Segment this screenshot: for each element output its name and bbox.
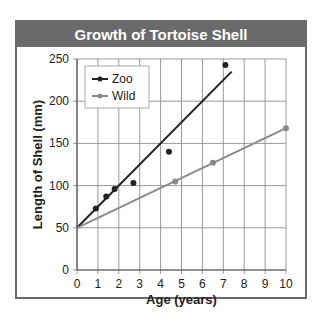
x-tick-label: 8	[241, 277, 248, 291]
data-point-zoo	[103, 194, 109, 200]
y-tick-label: 0	[62, 263, 69, 277]
y-tick-label: 100	[49, 179, 69, 193]
data-point-wild	[172, 178, 178, 184]
data-point-zoo	[112, 186, 118, 192]
data-point-wild	[210, 160, 216, 166]
x-tick-label: 10	[279, 277, 293, 291]
data-point-zoo	[130, 180, 136, 186]
x-tick-label: 6	[199, 277, 206, 291]
y-tick-label: 200	[49, 94, 69, 108]
x-tick-label: 4	[157, 277, 164, 291]
y-tick-label: 250	[49, 52, 69, 66]
y-tick-label: 50	[56, 221, 70, 235]
x-tick-label: 5	[178, 277, 185, 291]
data-point-zoo	[222, 62, 228, 68]
x-tick-label: 1	[95, 277, 102, 291]
chart-plot: 012345678910050100150200250Age (years)Le…	[0, 0, 324, 336]
x-tick-label: 7	[220, 277, 227, 291]
legend-marker-zoo	[98, 77, 103, 82]
x-axis-label: Age (years)	[146, 292, 217, 307]
data-point-zoo	[93, 205, 99, 211]
x-tick-label: 9	[262, 277, 269, 291]
legend-marker-wild	[98, 94, 103, 99]
data-point-wild	[283, 125, 289, 131]
x-tick-label: 3	[136, 277, 143, 291]
y-tick-label: 150	[49, 136, 69, 150]
legend-label-wild: Wild	[112, 89, 135, 103]
y-axis-label: Length of Shell (mm)	[30, 100, 45, 229]
data-point-zoo	[166, 149, 172, 155]
x-tick-label: 2	[115, 277, 122, 291]
legend-label-zoo: Zoo	[112, 72, 133, 86]
x-tick-label: 0	[74, 277, 81, 291]
